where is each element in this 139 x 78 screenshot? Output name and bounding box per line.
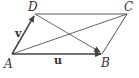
diagonal-db xyxy=(35,14,100,52)
parallelogram-diagram: A B C D v u xyxy=(0,0,139,78)
label-v: v xyxy=(14,27,22,40)
label-d: D xyxy=(27,0,38,14)
label-a: A xyxy=(3,57,13,71)
edge-cb xyxy=(102,14,127,54)
label-u: u xyxy=(54,54,62,67)
label-c: C xyxy=(124,0,133,14)
label-b: B xyxy=(100,56,110,70)
